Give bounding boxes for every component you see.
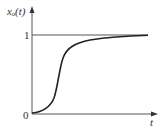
response-curve [32, 35, 148, 113]
y-axis-label: xₒ(t) [7, 6, 25, 17]
origin-label: 0 [23, 110, 29, 121]
x-axis-label: t [150, 117, 153, 128]
tick-label-one: 1 [24, 30, 30, 41]
y-axis-arrow-icon [30, 6, 35, 13]
